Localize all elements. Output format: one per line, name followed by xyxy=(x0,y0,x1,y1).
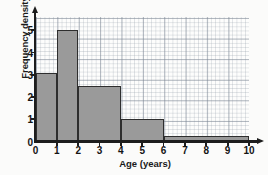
x-tick-mark xyxy=(56,142,58,146)
x-tick-label: 5 xyxy=(134,145,150,156)
x-axis-tick-labels: 012345678910 xyxy=(0,0,268,175)
x-tick-mark xyxy=(99,142,101,146)
x-tick-label: 0 xyxy=(28,145,44,156)
x-tick-mark xyxy=(141,142,143,146)
x-tick-label: 1 xyxy=(49,145,65,156)
y-tick-mark xyxy=(31,74,35,76)
x-tick-label: 2 xyxy=(70,145,86,156)
x-tick-label: 10 xyxy=(241,145,257,156)
y-tick-mark xyxy=(31,52,35,54)
x-tick-label: 8 xyxy=(198,145,214,156)
y-tick-mark xyxy=(31,29,35,31)
y-tick-mark xyxy=(31,96,35,98)
x-tick-mark xyxy=(248,142,250,146)
x-tick-mark xyxy=(227,142,229,146)
y-tick-mark xyxy=(31,118,35,120)
x-tick-mark xyxy=(205,142,207,146)
x-tick-mark xyxy=(184,142,186,146)
x-tick-mark xyxy=(120,142,122,146)
x-axis-title: Age (years) xyxy=(0,158,268,169)
histogram-figure: Frequency density 012345 012345678910 Ag… xyxy=(0,0,268,175)
x-axis-title-text: Age (years) xyxy=(119,158,171,169)
x-tick-label: 3 xyxy=(92,145,108,156)
x-tick-mark xyxy=(77,142,79,146)
x-tick-mark xyxy=(163,142,165,146)
x-tick-label: 6 xyxy=(156,145,172,156)
x-tick-label: 4 xyxy=(113,145,129,156)
x-tick-label: 7 xyxy=(177,145,193,156)
x-tick-label: 9 xyxy=(220,145,236,156)
